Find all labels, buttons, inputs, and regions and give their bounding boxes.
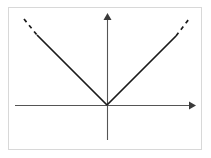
y-axis-arrowhead-icon — [104, 13, 112, 20]
curve-right-dashed-extension — [176, 19, 189, 36]
graph-plot-area — [0, 0, 211, 158]
figure-container: Absolute value function graph — [0, 0, 211, 158]
x-axis-arrowhead-icon — [189, 102, 196, 110]
curve-left-branch — [37, 35, 107, 105]
curve-right-branch — [107, 36, 176, 105]
curve-left-dashed-extension — [24, 19, 37, 35]
